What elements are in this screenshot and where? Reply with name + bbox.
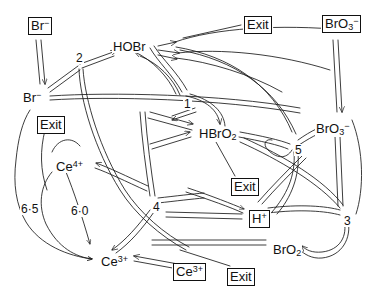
reaction-node-1[interactable]: 1	[183, 98, 192, 110]
species-label-ce3[interactable]: Ce3+	[100, 255, 129, 268]
species-label-br-pool[interactable]: Br−	[27, 19, 53, 32]
species-label-exit-mid[interactable]: Exit	[230, 180, 260, 193]
arrow-bro3-to-node3	[335, 136, 343, 206]
reaction-node-3[interactable]: 3	[343, 215, 352, 227]
reaction-2-edges	[48, 51, 189, 250]
reaction-5-edges	[239, 124, 331, 214]
reaction-node-5[interactable]: 5	[294, 144, 303, 156]
reaction-arrows-layer	[0, 0, 377, 303]
species-label-exit-top[interactable]: Exit	[243, 18, 273, 31]
arrow-brpool-to-br	[36, 40, 45, 84]
species-label-bro3-pool[interactable]: BrO3−	[321, 17, 362, 32]
exit-left-box: Exit	[37, 116, 65, 134]
outer-right-loop	[352, 120, 362, 214]
rate-label-65: 6·5	[20, 203, 39, 215]
species-label-bro2[interactable]: BrO2	[272, 243, 302, 258]
arrows-into-hbro2-left	[148, 112, 193, 149]
species-label-ce3-pool[interactable]: Ce3+	[172, 265, 207, 278]
species-label-exit-left[interactable]: Exit	[36, 118, 66, 131]
species-label-exit-bot[interactable]: Exit	[226, 270, 256, 283]
bro3-pool-box: BrO3−	[322, 15, 361, 33]
species-label-hplus[interactable]: H+	[248, 212, 271, 225]
reaction-node-2[interactable]: 2	[75, 52, 84, 64]
reaction-node-4[interactable]: 4	[152, 201, 161, 213]
reaction-4-edges	[95, 112, 204, 253]
br-pool-box: Br−	[28, 17, 52, 35]
species-label-br[interactable]: Br−	[22, 91, 42, 104]
species-label-bro3[interactable]: BrO3−	[315, 122, 350, 137]
species-label-hobr[interactable]: HOBr	[112, 40, 147, 53]
reaction-network-diagram: Br− HOBr Exit BrO3− Br− Exit HBrO2 BrO3−…	[0, 0, 377, 303]
reaction-1-edges	[50, 52, 300, 126]
sweep-hobr-to-node5	[176, 47, 296, 134]
hplus-box: H+	[249, 210, 270, 228]
ce3-pool-box: Ce3+	[173, 263, 206, 281]
hook-above-ce4	[52, 140, 80, 152]
arrow-bro2-left	[152, 240, 266, 245]
exit-top-box: Exit	[244, 16, 272, 34]
exit-mid-box: Exit	[231, 178, 259, 196]
rate-label-60: 6·0	[70, 205, 89, 217]
line-exit-top	[183, 25, 241, 38]
line-exit-mid	[216, 142, 235, 176]
species-label-hbro2[interactable]: HBrO2	[198, 127, 238, 142]
species-label-ce4[interactable]: Ce4+	[55, 160, 84, 173]
exit-bot-box: Exit	[227, 268, 255, 286]
arrow-bro3pool-to-bro3	[333, 40, 342, 112]
